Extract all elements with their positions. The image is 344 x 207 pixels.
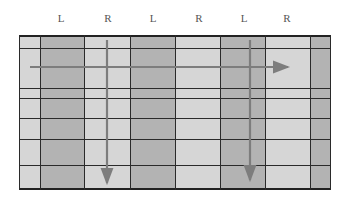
arrow-layer	[0, 0, 344, 207]
